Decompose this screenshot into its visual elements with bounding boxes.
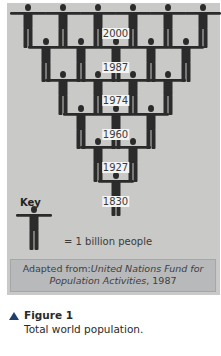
key-text: = 1 billion people <box>64 236 152 247</box>
source-org-line1: United Nations Fund for <box>91 263 204 274</box>
source-org-line2: Population Activities <box>50 275 147 286</box>
year-label: 1974 <box>102 95 129 106</box>
year-label: 1830 <box>102 196 129 207</box>
year-label: 2000 <box>102 28 129 39</box>
year-label: 1927 <box>102 162 129 173</box>
source-prefix: Adapted from: <box>23 263 91 274</box>
year-label: 1987 <box>102 62 129 73</box>
source-line-1: Adapted from:United Nations Fund for <box>11 263 215 275</box>
source-line-2: Population Activities, 1987 <box>11 275 215 287</box>
triangle-marker-icon <box>9 312 19 320</box>
caption-title: Figure 1 <box>24 309 73 321</box>
person-icon <box>96 171 136 217</box>
source-year: , 1987 <box>146 275 176 286</box>
key-person-icon <box>14 205 54 251</box>
year-label: 1960 <box>102 129 129 140</box>
caption-text: Total world population. <box>24 323 143 335</box>
source-box: Adapted from:United Nations Fund for Pop… <box>10 259 216 292</box>
